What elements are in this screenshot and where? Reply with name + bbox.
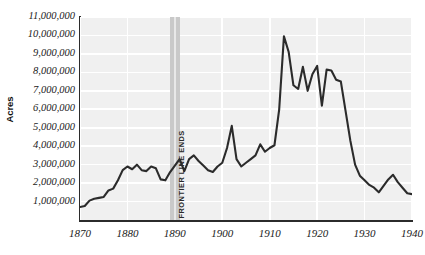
y-tick-label: 8,000,000 [0, 65, 75, 76]
y-tick-label: 3,000,000 [0, 158, 75, 169]
y-tick-label: 5,000,000 [0, 121, 75, 132]
x-axis-line [79, 220, 413, 222]
x-tick-label: 1940 [382, 227, 425, 239]
acres-line-series [80, 36, 412, 207]
y-tick-label: 6,000,000 [0, 102, 75, 113]
chart-container: Acres FRONTIER LINE ENDS 1,000,0002,000,… [0, 0, 425, 255]
y-tick-label: 11,000,000 [0, 10, 75, 21]
plot-area: FRONTIER LINE ENDS [80, 17, 412, 220]
y-tick-label: 10,000,000 [0, 28, 75, 39]
y-tick-label: 9,000,000 [0, 47, 75, 58]
y-tick-label: 4,000,000 [0, 139, 75, 150]
y-tick-label: 7,000,000 [0, 84, 75, 95]
y-tick-label: 2,000,000 [0, 176, 75, 187]
data-series-svg [80, 17, 412, 220]
y-tick-label: 1,000,000 [0, 195, 75, 206]
